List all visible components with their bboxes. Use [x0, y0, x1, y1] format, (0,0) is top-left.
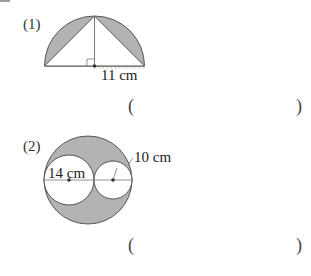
figure-2-small-dimension-label: 10 cm: [134, 149, 171, 165]
figure-2-large-dimension-label: 14 cm: [48, 165, 85, 181]
answer-2-close-paren: ): [296, 235, 302, 256]
figure-1-dimension-label: 11 cm: [101, 67, 138, 83]
answer-1-open-paren: (: [128, 96, 134, 117]
problem-2-number: (2): [23, 138, 41, 155]
answer-1-close-paren: ): [296, 96, 302, 117]
answer-2-open-paren: (: [128, 235, 134, 256]
figure-1-semicircle: 11 cm: [45, 16, 145, 83]
figures-canvas: 11 cm 14 cm 10 cm: [0, 0, 311, 276]
figure-2-circles: 14 cm 10 cm: [44, 136, 171, 224]
